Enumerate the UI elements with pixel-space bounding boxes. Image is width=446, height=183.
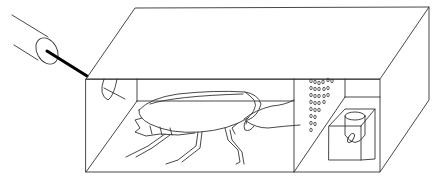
- side-compartment-cube: [329, 109, 375, 160]
- diagram-canvas: [0, 0, 446, 183]
- box: [86, 7, 429, 172]
- apparatus-diagram: [0, 0, 446, 183]
- vial: [345, 112, 365, 144]
- tube: [12, 15, 87, 76]
- cockroach: [126, 91, 300, 164]
- perforated-partition: [310, 78, 333, 132]
